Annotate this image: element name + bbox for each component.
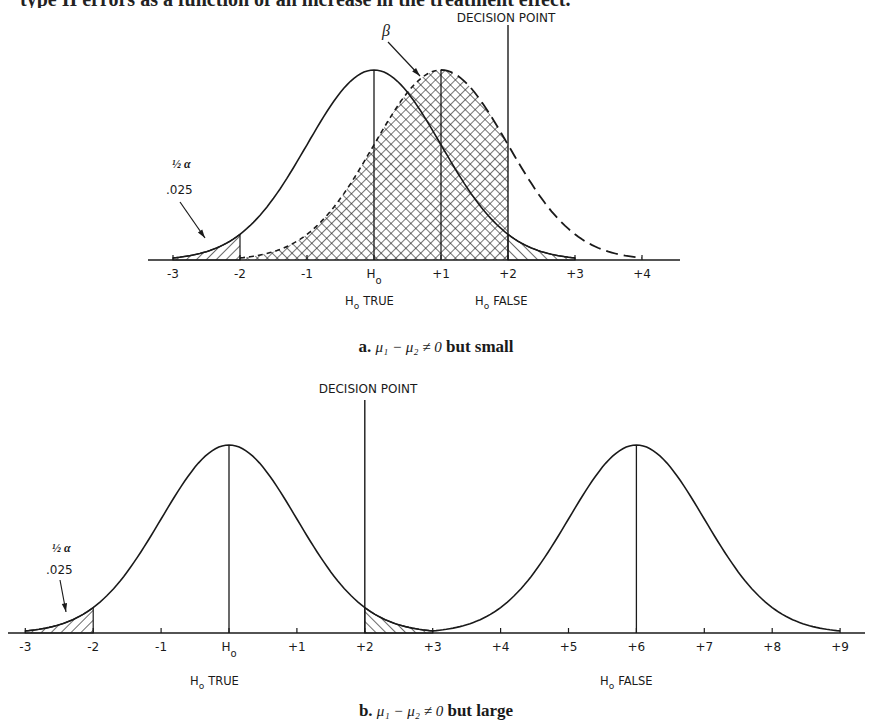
x-tick-label: +2 <box>356 640 374 654</box>
panel-caption: b. μ₁ − μ₂ ≠ 0 but large <box>359 701 514 720</box>
alpha-value-label: .025 <box>166 183 193 197</box>
x-tick-label: Ho <box>221 640 236 659</box>
x-tick-label: +6 <box>628 640 646 654</box>
x-tick-label: +2 <box>499 267 517 281</box>
decision-point-label: DECISION POINT <box>319 382 418 396</box>
x-tick-label: -2 <box>87 640 99 654</box>
x-tick-label: +1 <box>432 267 450 281</box>
half-alpha-label: ½ α <box>52 541 71 555</box>
x-tick-label: +4 <box>633 267 651 281</box>
beta-label: β <box>381 22 390 40</box>
half-alpha-label: ½ α <box>172 157 191 171</box>
x-tick-label: -3 <box>19 640 31 654</box>
panel-a-chart: DECISION POINT-3-2-1Ho+1+2+3+4HoTRUEHoFA… <box>148 11 680 356</box>
alpha-arrow-head-icon <box>198 229 205 238</box>
x-tick-label: +9 <box>831 640 849 654</box>
h0-true-label: HoTRUE <box>345 294 394 311</box>
h0-false-label: HoFALSE <box>475 294 528 311</box>
x-tick-label: +3 <box>424 640 442 654</box>
h0-false-label: HoFALSE <box>600 674 653 691</box>
x-tick-label: +7 <box>695 640 713 654</box>
x-tick-label: -3 <box>167 267 179 281</box>
figure: DECISION POINT-3-2-1Ho+1+2+3+4HoTRUEHoFA… <box>0 0 871 726</box>
x-tick-label: -1 <box>155 640 167 654</box>
panel-caption: a. μ₁ − μ₂ ≠ 0 but small <box>358 337 513 356</box>
alpha-value-label: .025 <box>46 563 73 577</box>
x-tick-label: +5 <box>560 640 578 654</box>
decision-point-label: DECISION POINT <box>457 11 556 25</box>
x-tick-label: -1 <box>301 267 313 281</box>
x-tick-label: Ho <box>366 267 381 286</box>
panel-b-chart: DECISION POINT-3-2-1Ho+1+2+3+4+5+6+7+8+9… <box>8 382 865 720</box>
x-tick-label: +4 <box>492 640 510 654</box>
x-tick-label: +8 <box>763 640 781 654</box>
x-tick-label: +3 <box>566 267 584 281</box>
x-tick-label: -2 <box>234 267 246 281</box>
h0-true-label: HoTRUE <box>190 674 239 691</box>
x-tick-label: +1 <box>288 640 306 654</box>
